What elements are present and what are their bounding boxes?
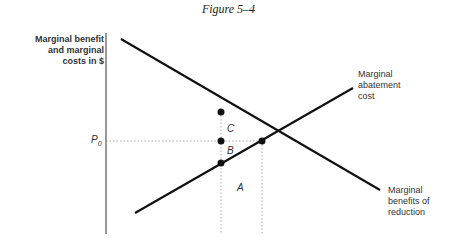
area-b-label: B [227, 145, 234, 156]
area-c-label: C [227, 123, 234, 134]
point-equilibrium [259, 138, 266, 145]
mb-label-line: benefits of [388, 196, 430, 207]
mb-label: Marginal benefits of reduction [388, 185, 430, 218]
p0-label: P0 [91, 134, 102, 147]
area-a-label: A [237, 182, 244, 193]
p0-letter: P [91, 134, 98, 145]
point-mac [218, 160, 225, 167]
mac-label-line: abatement [358, 80, 401, 91]
marginal-benefits-line [121, 39, 380, 190]
point-mb [218, 109, 225, 116]
mac-label-line: Marginal [358, 69, 401, 80]
marginal-abatement-cost-line [135, 88, 353, 213]
point-p0 [218, 138, 225, 145]
mb-label-line: reduction [388, 207, 430, 218]
mb-label-line: Marginal [388, 185, 430, 196]
mac-label: Marginal abatement cost [358, 69, 401, 102]
mac-label-line: cost [358, 91, 401, 102]
p0-subscript: 0 [98, 140, 102, 147]
